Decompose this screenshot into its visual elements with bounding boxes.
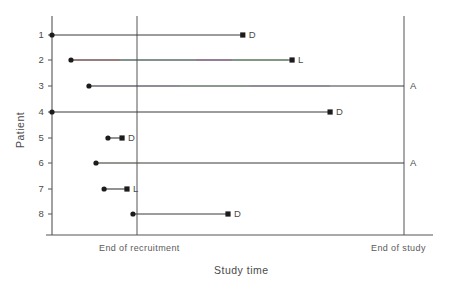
entry-marker-dot bbox=[130, 211, 135, 216]
outcome-marker-square bbox=[240, 32, 245, 37]
outcome-label-a-p6: A bbox=[410, 157, 417, 168]
reference-lines bbox=[137, 16, 404, 235]
end-of-study-caption: End of study bbox=[371, 243, 426, 253]
y-tick-label-8: 8 bbox=[30, 208, 44, 219]
y-tick-label-2: 2 bbox=[30, 54, 44, 65]
outcome-label-l-p2: L bbox=[298, 54, 304, 65]
y-tick-label-4: 4 bbox=[30, 106, 44, 117]
outcome-label-l-p7: L bbox=[133, 183, 139, 194]
y-tick-marks bbox=[48, 35, 52, 214]
y-tick-label-6: 6 bbox=[30, 157, 44, 168]
axes bbox=[46, 16, 433, 235]
y-tick-label-7: 7 bbox=[30, 183, 44, 194]
outcome-label-d-p5: D bbox=[128, 132, 135, 143]
y-tick-label-5: 5 bbox=[30, 132, 44, 143]
entry-marker-dot bbox=[101, 186, 106, 191]
outcome-marker-square bbox=[289, 57, 294, 62]
y-tick-label-3: 3 bbox=[30, 80, 44, 91]
x-axis-title: Study time bbox=[214, 264, 269, 276]
entry-marker-dot bbox=[86, 83, 91, 88]
y-axis-title: Patient bbox=[14, 112, 26, 148]
survival-timeline-chart: 1 2 3 4 5 6 7 8 DLADDALD End of recruitm… bbox=[0, 0, 456, 289]
y-tick-label-1: 1 bbox=[30, 29, 44, 40]
patient-timelines bbox=[49, 32, 404, 216]
outcome-label-a-p3: A bbox=[410, 80, 417, 91]
outcome-label-d-p1: D bbox=[249, 29, 256, 40]
outcome-marker-square bbox=[124, 186, 129, 191]
entry-marker-dot bbox=[49, 109, 54, 114]
outcome-marker-square bbox=[327, 109, 332, 114]
entry-marker-dot bbox=[93, 160, 98, 165]
entry-marker-dot bbox=[49, 32, 54, 37]
end-of-recruitment-caption: End of recruitment bbox=[99, 243, 180, 253]
outcome-label-d-p8: D bbox=[234, 208, 241, 219]
entry-marker-dot bbox=[68, 57, 73, 62]
outcome-marker-square bbox=[119, 135, 124, 140]
entry-marker-dot bbox=[105, 135, 110, 140]
outcome-marker-square bbox=[225, 211, 230, 216]
outcome-label-d-p4: D bbox=[336, 106, 343, 117]
